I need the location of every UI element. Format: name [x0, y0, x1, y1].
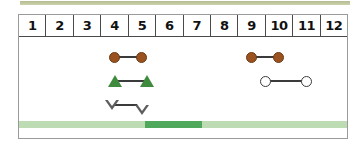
filled-circle-marker-icon[interactable] — [109, 52, 120, 63]
column-header-cell[interactable]: 12 — [321, 15, 347, 36]
filled-circle-marker-icon[interactable] — [273, 52, 284, 63]
column-header-label: 2 — [55, 18, 64, 33]
range-segment[interactable] — [251, 49, 278, 65]
column-header-label: 11 — [298, 18, 315, 33]
range-segment[interactable] — [115, 73, 148, 89]
bottom-track-highlight — [145, 121, 202, 128]
column-header-cell[interactable]: 9 — [238, 15, 265, 36]
column-header-label: 4 — [110, 18, 119, 33]
filled-circle-marker-icon[interactable] — [136, 52, 147, 63]
column-header-label: 12 — [325, 18, 342, 33]
range-connector-line — [265, 80, 306, 82]
filled-triangle-up-marker-icon[interactable] — [140, 75, 154, 87]
column-header-cell[interactable]: 4 — [101, 15, 128, 36]
open-triangle-down-marker-icon[interactable] — [135, 105, 149, 115]
filled-circle-marker-icon[interactable] — [246, 52, 257, 63]
column-header-cell[interactable]: 5 — [129, 15, 156, 36]
column-header-label: 9 — [247, 18, 256, 33]
range-segment[interactable] — [115, 49, 142, 65]
column-header-label: 1 — [28, 18, 37, 33]
chart-panel: 1 2 3 4 5 6 7 8 9 10 11 12 — [18, 14, 348, 139]
column-header-label: 7 — [192, 18, 201, 33]
column-header-cell[interactable]: 1 — [19, 15, 46, 36]
column-header-cell[interactable]: 7 — [184, 15, 211, 36]
column-header-cell[interactable]: 2 — [46, 15, 73, 36]
column-header-cell[interactable]: 10 — [266, 15, 293, 36]
column-header-cell[interactable]: 11 — [293, 15, 320, 36]
column-header-label: 3 — [83, 18, 92, 33]
column-header-label: 8 — [220, 18, 229, 33]
column-header-label: 6 — [165, 18, 174, 33]
column-header-label: 5 — [138, 18, 147, 33]
column-header-cell[interactable]: 6 — [156, 15, 183, 36]
open-triangle-down-marker-icon[interactable] — [105, 100, 119, 110]
column-header-row: 1 2 3 4 5 6 7 8 9 10 11 12 — [19, 15, 347, 37]
range-segment[interactable] — [265, 73, 306, 89]
column-header-cell[interactable]: 8 — [211, 15, 238, 36]
bottom-track-bar — [19, 121, 347, 128]
filled-triangle-up-marker-icon[interactable] — [108, 75, 122, 87]
open-circle-marker-icon[interactable] — [260, 76, 271, 87]
range-segment[interactable] — [112, 97, 142, 113]
open-circle-marker-icon[interactable] — [301, 76, 312, 87]
top-accent-bar — [20, 1, 350, 5]
column-header-cell[interactable]: 3 — [74, 15, 101, 36]
column-header-label: 10 — [270, 18, 287, 33]
